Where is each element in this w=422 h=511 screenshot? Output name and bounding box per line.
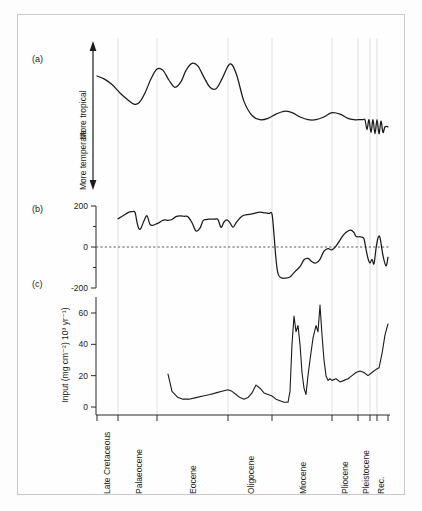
x-axis: Late CretaceousPalaeoceneEoceneOligocene… bbox=[97, 415, 388, 494]
arrow-head-up-icon bbox=[90, 41, 97, 51]
panel-c: (c) 6040200 Input (mg cm⁻²) 10³ yr⁻¹) bbox=[32, 279, 390, 415]
epoch-label-palaeocene: Palaeocene bbox=[134, 449, 144, 494]
panel-a-curve bbox=[97, 63, 388, 134]
panel-c-axis-title: Input (mg cm⁻²) 10³ yr⁻¹) bbox=[60, 307, 70, 402]
panel-c-tag: (c) bbox=[32, 279, 43, 289]
panel-b-tag: (b) bbox=[32, 204, 43, 214]
epoch-label-pliocene: Pliocene bbox=[340, 461, 350, 494]
panel-b-curve bbox=[118, 211, 388, 278]
panel-c-tick-label: 20 bbox=[79, 371, 89, 381]
panel-c-curve bbox=[168, 305, 388, 402]
panel-c-tick-label: 0 bbox=[83, 402, 88, 412]
panel-b-tick-label: -200 bbox=[71, 283, 88, 293]
panel-b-tick-marks bbox=[91, 206, 96, 288]
epoch-label-eocene: Eocene bbox=[188, 465, 198, 494]
figure-root: (a) More tropical More temperate (b) 200… bbox=[0, 0, 422, 511]
stratigraphic-chart: (a) More tropical More temperate (b) 200… bbox=[0, 0, 422, 511]
more-temperate-label: More temperate bbox=[78, 130, 88, 190]
panel-b-tick-label: 200 bbox=[74, 201, 88, 211]
panel-c-tick-marks bbox=[91, 313, 96, 407]
panel-b: (b) 2000-200 bbox=[32, 201, 390, 293]
epoch-label-oligocene: Oligocene bbox=[246, 455, 256, 494]
epoch-labels: Late CretaceousPalaeoceneEoceneOligocene… bbox=[102, 432, 386, 494]
panel-a: (a) More tropical More temperate bbox=[32, 41, 388, 190]
x-axis-tick-marks bbox=[97, 415, 388, 421]
panel-a-tag: (a) bbox=[32, 54, 43, 64]
epoch-label-miocene: Miocene bbox=[298, 462, 308, 494]
arrow-head-down-icon bbox=[90, 180, 97, 190]
epoch-label-rec: Rec. bbox=[376, 477, 386, 494]
epoch-label-late-cretaceous: Late Cretaceous bbox=[102, 432, 112, 494]
epoch-gridlines bbox=[118, 38, 377, 415]
panel-c-tick-label: 40 bbox=[79, 339, 89, 349]
panel-b-tick-label: 0 bbox=[83, 242, 88, 252]
panel-c-tick-label: 60 bbox=[79, 308, 89, 318]
climate-arrow bbox=[90, 41, 97, 190]
panel-b-tick-labels: 2000-200 bbox=[71, 201, 88, 293]
epoch-label-pleistocene: Pleistocene bbox=[361, 450, 371, 494]
panel-c-tick-labels: 6040200 bbox=[79, 308, 89, 412]
